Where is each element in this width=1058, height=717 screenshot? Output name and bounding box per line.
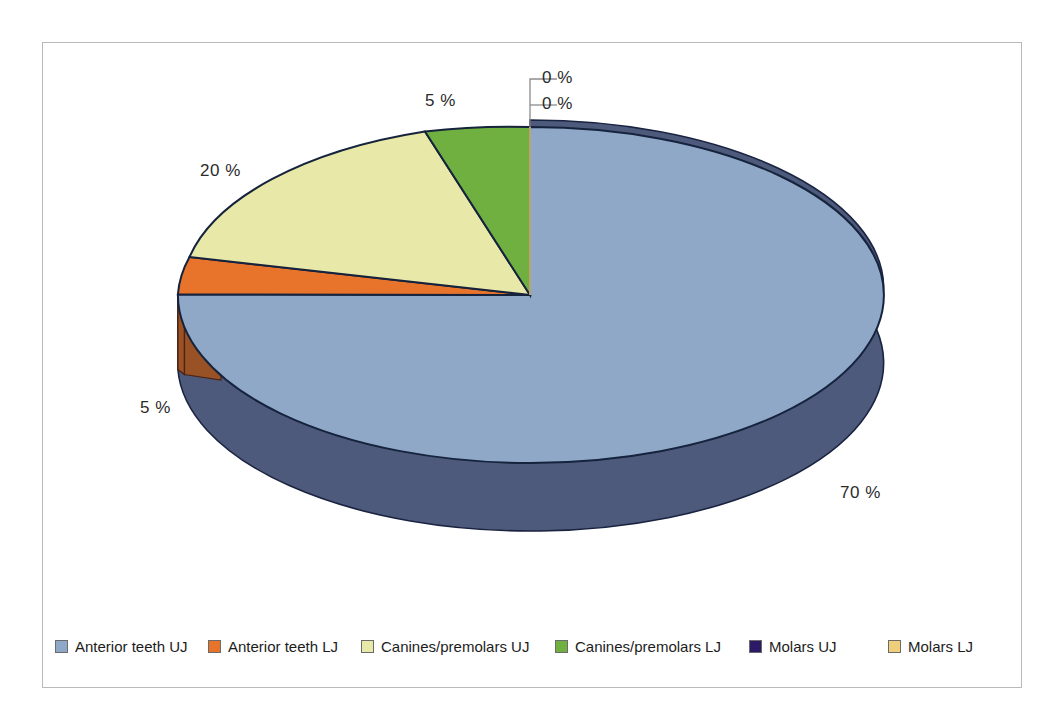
pie-top-faces	[178, 127, 884, 463]
legend-swatch-icon	[555, 640, 568, 653]
legend-swatch-icon	[749, 640, 762, 653]
legend-swatch-icon	[55, 640, 68, 653]
legend-label: Molars LJ	[908, 639, 973, 654]
data-label-canines-premolars-uj: 20 %	[200, 161, 241, 181]
legend-swatch-icon	[888, 640, 901, 653]
legend-item-canines-premolars-lj[interactable]: Canines/premolars LJ	[555, 639, 721, 654]
legend-item-anterior-teeth-lj[interactable]: Anterior teeth LJ	[208, 639, 338, 654]
legend-label: Molars UJ	[769, 639, 837, 654]
data-label-molars-uj: 0 %	[542, 68, 573, 88]
legend-swatch-icon	[361, 640, 374, 653]
legend-item-anterior-teeth-uj[interactable]: Anterior teeth UJ	[55, 639, 188, 654]
pie-chart-graphic	[43, 43, 1023, 603]
data-label-anterior-teeth-lj: 5 %	[140, 398, 171, 418]
legend-swatch-icon	[208, 640, 221, 653]
legend-item-molars-uj[interactable]: Molars UJ	[749, 639, 837, 654]
legend-item-canines-premolars-uj[interactable]: Canines/premolars UJ	[361, 639, 529, 654]
chart-legend: Anterior teeth UJ Anterior teeth LJ Cani…	[43, 601, 1023, 687]
legend-item-molars-lj[interactable]: Molars LJ	[888, 639, 973, 654]
legend-label: Canines/premolars UJ	[381, 639, 529, 654]
legend-label: Canines/premolars LJ	[575, 639, 721, 654]
chart-frame: 0 % 0 % 5 % 20 % 5 % 70 % Anterior teeth…	[42, 42, 1022, 688]
legend-label: Anterior teeth UJ	[75, 639, 188, 654]
pie-chart-plot-area: 0 % 0 % 5 % 20 % 5 % 70 %	[43, 43, 1023, 603]
data-label-molars-lj: 0 %	[542, 94, 573, 114]
data-label-canines-premolars-lj: 5 %	[425, 91, 456, 111]
legend-label: Anterior teeth LJ	[228, 639, 338, 654]
data-label-anterior-teeth-uj: 70 %	[840, 483, 881, 503]
